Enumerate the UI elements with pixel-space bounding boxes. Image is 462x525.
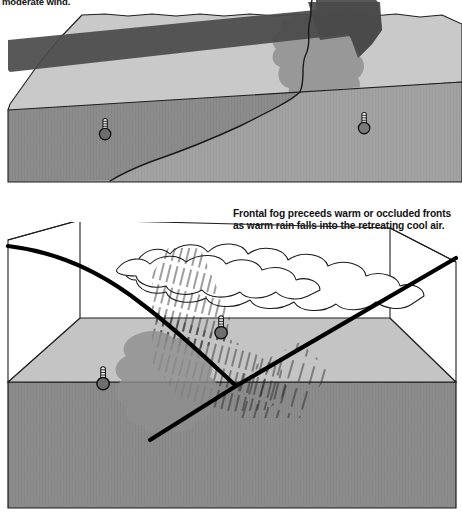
figure-page: moderate wind. bbox=[0, 0, 462, 525]
frontal-fog-block bbox=[0, 222, 462, 525]
advection-fog-block bbox=[0, 0, 462, 200]
